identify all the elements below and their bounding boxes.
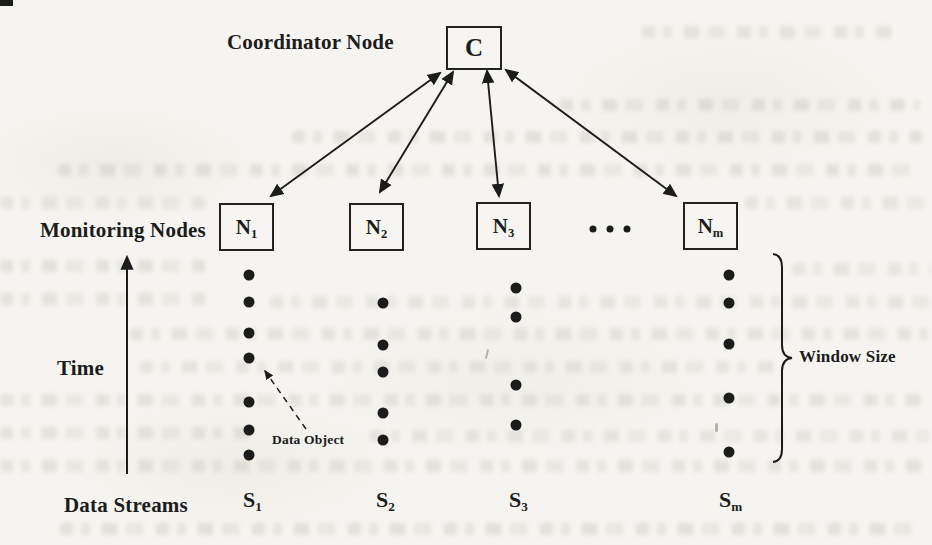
- window-size-label: Window Size: [799, 347, 896, 367]
- ellipsis-dot: [624, 226, 631, 233]
- scan-edge-artifact: [0, 0, 13, 6]
- data-object-dot: [244, 450, 255, 461]
- data-object-label: Data Object: [272, 432, 344, 448]
- data-object-dot: [724, 339, 735, 350]
- data-object-dot: [511, 283, 522, 294]
- bleed-through-row: [0, 197, 205, 209]
- bleed-through-row: [0, 394, 930, 406]
- bleed-through-row: [0, 460, 930, 472]
- bleed-through-row: [60, 523, 922, 535]
- bleed-through-row: [0, 293, 212, 305]
- coordinator-node-letter: C: [465, 34, 483, 62]
- bleed-through-row: [642, 26, 894, 38]
- monitoring-node-nm-box: Nm: [683, 202, 738, 250]
- coordinator-node-box: C: [446, 26, 502, 70]
- data-object-dot: [378, 340, 389, 351]
- data-object-dot: [244, 297, 255, 308]
- bleed-through-row: [370, 430, 930, 442]
- ellipsis-dot: [590, 226, 597, 233]
- time-label: Time: [57, 356, 104, 381]
- bleed-through-row: [745, 197, 930, 209]
- data-object-dot: [511, 420, 522, 431]
- node-letter: N3: [493, 214, 514, 239]
- bleed-through-row: [58, 164, 920, 176]
- node-letter: N2: [366, 215, 387, 240]
- scanned-figure-page: Coordinator Node Monitoring Nodes Time D…: [0, 0, 932, 545]
- data-object-dot: [724, 270, 735, 281]
- data-streams-label: Data Streams: [64, 493, 188, 518]
- bleed-through-row: [560, 99, 920, 111]
- monitoring-node-n3-box: N3: [476, 202, 531, 250]
- bleed-through-row: [140, 361, 780, 373]
- stream-s3-label: S3: [509, 487, 528, 513]
- scan-speck: [715, 423, 718, 432]
- stream-s2-label: S2: [376, 487, 395, 513]
- stream-s1-label: S1: [243, 487, 262, 513]
- bleed-through-row: [0, 260, 212, 272]
- coordinator-node-label: Coordinator Node: [227, 30, 394, 55]
- data-object-dot: [511, 312, 522, 323]
- node-letter: Nm: [698, 214, 724, 239]
- data-object-dot: [724, 447, 735, 458]
- ellipsis-dot: [607, 226, 614, 233]
- data-object-dot: [244, 270, 255, 281]
- monitoring-nodes-label: Monitoring Nodes: [40, 218, 206, 243]
- bleed-through-row: [270, 296, 932, 308]
- bleed-through-row: [130, 328, 930, 340]
- scan-speck: [485, 349, 489, 359]
- bleed-through-row: [292, 131, 922, 143]
- monitoring-node-n1-box: N1: [219, 203, 274, 251]
- stream-sm-label: Sm: [719, 487, 742, 513]
- monitoring-node-n2-box: N2: [349, 203, 404, 251]
- bleed-through-row: [792, 263, 932, 275]
- node-letter: N1: [236, 215, 257, 240]
- data-object-dot: [511, 380, 522, 391]
- bleed-through-row: [0, 427, 250, 439]
- ellipsis-dots-icon: [590, 226, 631, 233]
- data-object-dot: [378, 408, 389, 419]
